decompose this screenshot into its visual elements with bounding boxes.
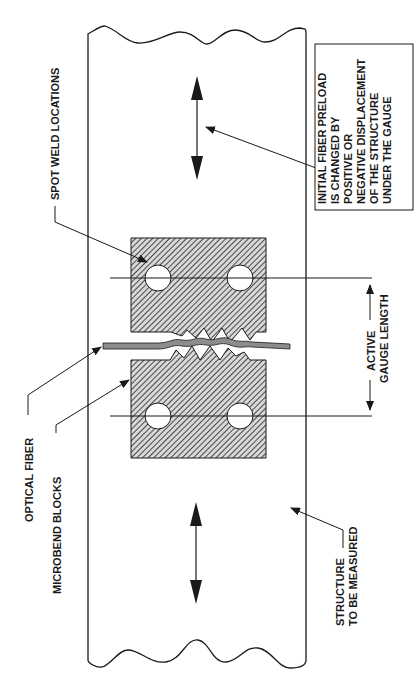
svg-text:NEGATIVE DISPLACEMENT: NEGATIVE DISPLACEMENT (355, 58, 367, 204)
svg-text:POSITIVE OR: POSITIVE OR (342, 134, 354, 204)
label-structure-to-be-measured: STRUCTURE TO BE MEASURED (334, 527, 359, 626)
svg-text:ACTIVE: ACTIVE (365, 331, 377, 371)
svg-text:IS CHANGED BY: IS CHANGED BY (329, 116, 341, 204)
leader-preload (206, 127, 316, 168)
label-active-gauge-length: ACTIVE GAUGE LENGTH (365, 294, 390, 383)
displacement-arrow-upper-icon (191, 76, 203, 180)
optical-fiber (103, 338, 290, 349)
svg-text:STRUCTURE: STRUCTURE (334, 558, 346, 626)
leader-structure (291, 508, 343, 548)
displacement-arrow-lower-icon (190, 502, 202, 604)
label-spot-weld-locations: SPOT WELD LOCATIONS (49, 68, 61, 200)
svg-text:GAUGE LENGTH: GAUGE LENGTH (378, 294, 390, 383)
label-microbend-blocks: MICROBEND BLOCKS (51, 477, 63, 594)
label-optical-fiber: OPTICAL FIBER (23, 438, 35, 522)
microbend-gauge-diagram: INITIAL FIBER PRELOAD IS CHANGED BY POSI… (0, 0, 416, 686)
svg-text:TO BE MEASURED: TO BE MEASURED (347, 527, 359, 626)
svg-text:INITIAL FIBER PRELOAD: INITIAL FIBER PRELOAD (316, 73, 328, 204)
lower-microbend-block (131, 346, 266, 458)
svg-text:OF THE STRUCTURE: OF THE STRUCTURE (368, 93, 380, 204)
leader-optical-fiber (28, 347, 101, 415)
leader-microbend-blocks (56, 380, 129, 433)
svg-text:UNDER THE GAUGE: UNDER THE GAUGE (381, 96, 393, 204)
